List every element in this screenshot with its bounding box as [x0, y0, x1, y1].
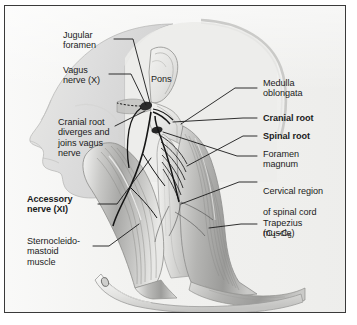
cervical-region-line-2: of spinal cord — [263, 207, 316, 217]
cervical-region-line-1: Cervical region — [263, 186, 323, 196]
label-trapezius-muscle: Trapezius muscle — [263, 218, 302, 239]
label-foramen-magnum: Foramen magnum — [263, 149, 299, 170]
label-cranial-root: Cranial root — [263, 113, 313, 123]
label-pons: Pons — [151, 74, 172, 84]
label-jugular-foramen: Jugular foramen — [63, 30, 96, 51]
label-medulla-oblongata: Medulla oblongata — [263, 78, 303, 99]
figure-frame: Jugular foramen Vagus nerve (X) Cranial … — [4, 5, 346, 313]
label-cranial-root-diverges: Cranial root diverges and joins vagus ne… — [58, 117, 109, 159]
label-sternocleidomastoid-muscle: Sternocleido- mastoid muscle — [27, 236, 80, 267]
label-accessory-nerve: Accessory nerve (XI) — [27, 194, 73, 215]
label-spinal-root: Spinal root — [263, 131, 310, 141]
label-vagus-nerve: Vagus nerve (X) — [63, 65, 100, 86]
anatomical-figure: Jugular foramen Vagus nerve (X) Cranial … — [0, 0, 357, 325]
